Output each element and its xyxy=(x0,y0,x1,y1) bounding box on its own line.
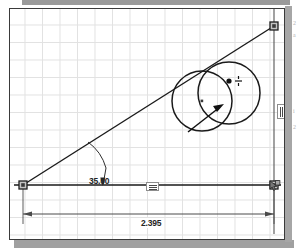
margin-text-fragment: 2 xyxy=(293,124,296,130)
crosshair-cursor xyxy=(235,76,242,86)
horizontal-constraint-icon[interactable] xyxy=(146,182,159,191)
margin-text-fragment: a xyxy=(293,32,296,38)
circle-right-center-point[interactable] xyxy=(226,78,231,83)
node-apex[interactable] xyxy=(270,22,278,30)
angle-dimension-arc[interactable] xyxy=(88,142,106,168)
dimension-arrowhead-right xyxy=(265,211,274,216)
page-shadow-top xyxy=(22,0,290,5)
hypotenuse-line[interactable] xyxy=(23,26,274,185)
cad-sketch-screenshot: 35.00 2.395 2 a i 2 xyxy=(0,0,301,250)
sketch-geometry[interactable] xyxy=(10,9,283,238)
vertical-constraint-icon[interactable] xyxy=(277,104,285,119)
snap-cursor-icon xyxy=(268,180,281,193)
page-shadow-right xyxy=(285,6,292,242)
sketch-canvas[interactable]: 35.00 2.395 xyxy=(9,8,285,240)
page-shadow-bottom xyxy=(14,240,294,248)
dimension-arrowhead-left xyxy=(23,211,32,216)
node-origin[interactable] xyxy=(19,181,27,189)
length-dimension-label[interactable]: 2.395 xyxy=(139,218,163,228)
circle-left-center-point[interactable] xyxy=(201,100,204,103)
margin-text-fragment: 2 xyxy=(293,20,296,26)
angle-dimension-label[interactable]: 35.00 xyxy=(89,176,109,186)
margin-text-fragment: i xyxy=(293,108,295,114)
